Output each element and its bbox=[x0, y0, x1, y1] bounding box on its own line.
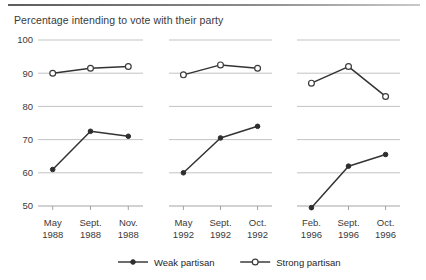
legend-label-1: Strong partisan bbox=[276, 257, 340, 268]
data-point-weak-partisan[interactable] bbox=[255, 124, 260, 129]
x-axis-label-year: 1996 bbox=[375, 229, 396, 240]
x-axis-label-month: Nov. bbox=[119, 217, 138, 228]
data-point-weak-partisan[interactable] bbox=[50, 167, 55, 172]
chart-panel-1996: Feb.1996Sept.1996Oct.1996 bbox=[297, 40, 400, 240]
x-axis-label-month: Sept. bbox=[209, 217, 231, 228]
legend-label-0: Weak partisan bbox=[154, 257, 215, 268]
x-axis-label-year: 1992 bbox=[247, 229, 268, 240]
data-point-strong-partisan[interactable] bbox=[181, 72, 187, 78]
x-axis-label-month: May bbox=[44, 217, 62, 228]
data-point-strong-partisan[interactable] bbox=[383, 94, 389, 100]
x-axis-label-year: 1996 bbox=[338, 229, 359, 240]
x-axis-label-month: Oct. bbox=[249, 217, 266, 228]
data-point-weak-partisan[interactable] bbox=[309, 205, 314, 210]
data-point-weak-partisan[interactable] bbox=[126, 134, 131, 139]
data-point-weak-partisan[interactable] bbox=[88, 129, 93, 134]
x-axis-label-month: Feb. bbox=[302, 217, 321, 228]
data-point-weak-partisan[interactable] bbox=[181, 171, 186, 176]
chart-panel-1988: May1988Sept.1988Nov.1988 bbox=[38, 40, 143, 240]
data-point-weak-partisan[interactable] bbox=[346, 164, 351, 169]
legend-marker-filled-circle bbox=[131, 260, 136, 265]
x-axis-label-month: May bbox=[174, 217, 192, 228]
data-point-weak-partisan[interactable] bbox=[218, 136, 223, 141]
data-point-strong-partisan[interactable] bbox=[218, 62, 224, 68]
chart-legend: Weak partisanStrong partisan bbox=[118, 257, 341, 268]
chart-figure: Percentage intending to vote with their … bbox=[0, 0, 426, 280]
y-axis-tick-label: 80 bbox=[22, 101, 33, 112]
y-axis-tick-label: 100 bbox=[17, 34, 33, 45]
series-line-strong-partisan bbox=[311, 67, 385, 97]
series-line-weak-partisan bbox=[311, 155, 385, 208]
y-axis-tick-label: 90 bbox=[22, 68, 33, 79]
data-point-strong-partisan[interactable] bbox=[309, 80, 315, 86]
x-axis-label-year: 1992 bbox=[210, 229, 231, 240]
x-axis-label-year: 1988 bbox=[42, 229, 63, 240]
chart-panel-1992: May1992Sept.1992Oct.1992 bbox=[169, 40, 272, 240]
x-axis-label-year: 1988 bbox=[80, 229, 101, 240]
data-point-strong-partisan[interactable] bbox=[255, 65, 261, 71]
series-line-weak-partisan bbox=[183, 126, 257, 172]
data-point-strong-partisan[interactable] bbox=[88, 65, 94, 71]
x-axis-label-year: 1992 bbox=[173, 229, 194, 240]
x-axis-label-month: Oct. bbox=[377, 217, 394, 228]
data-point-strong-partisan[interactable] bbox=[50, 70, 56, 76]
x-axis-label-year: 1988 bbox=[118, 229, 139, 240]
x-axis-label-month: Sept. bbox=[79, 217, 101, 228]
legend-marker-open-circle bbox=[252, 259, 258, 265]
line-chart-plot: 5060708090100May1988Sept.1988Nov.1988May… bbox=[0, 0, 426, 280]
y-axis-tick-label: 50 bbox=[22, 200, 33, 211]
y-axis-tick-label: 70 bbox=[22, 134, 33, 145]
y-axis-tick-label: 60 bbox=[22, 167, 33, 178]
data-point-weak-partisan[interactable] bbox=[383, 152, 388, 157]
x-axis-label-year: 1996 bbox=[301, 229, 322, 240]
data-point-strong-partisan[interactable] bbox=[125, 64, 131, 70]
data-point-strong-partisan[interactable] bbox=[346, 64, 352, 70]
series-line-weak-partisan bbox=[53, 131, 129, 169]
x-axis-label-month: Sept. bbox=[337, 217, 359, 228]
